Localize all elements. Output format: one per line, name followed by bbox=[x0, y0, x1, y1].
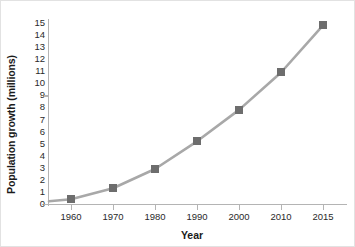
data-point-marker bbox=[109, 184, 117, 192]
data-point-marker bbox=[67, 195, 75, 203]
data-point-marker bbox=[235, 106, 243, 114]
data-point-marker bbox=[151, 165, 159, 173]
data-point-marker bbox=[319, 21, 327, 29]
series-line bbox=[1, 1, 355, 247]
x-axis-title: Year bbox=[38, 229, 346, 241]
data-point-marker bbox=[193, 137, 201, 145]
data-point-marker bbox=[277, 68, 285, 76]
chart-figure: Population growth (millions) 01234567891… bbox=[0, 0, 355, 247]
